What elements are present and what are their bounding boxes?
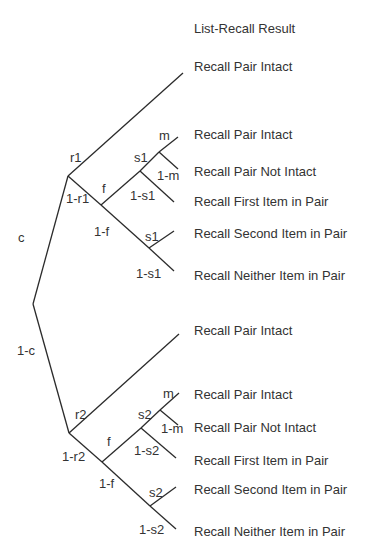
edge-1-c [33,304,69,433]
label-s1-upper: s1 [134,150,148,165]
label-r2: r2 [75,407,87,422]
label-s2-upper: s2 [138,407,152,422]
label-1-m: 1-m [161,421,183,436]
label-1-s2-upper: 1-s2 [134,443,159,458]
label-f: f [102,181,106,196]
outcome-lower-3: Recall Pair Not Intact [194,420,316,435]
label-m: m [163,386,174,401]
label-m: m [159,128,170,143]
label-1-s1-upper: 1-s1 [130,188,155,203]
outcome-upper-5: Recall Second Item in Pair [194,226,348,241]
outcome-upper-1: Recall Pair Intact [194,59,293,74]
edge-1-m [159,152,178,169]
label-r1: r1 [70,150,82,165]
label-s2-lower: s2 [149,485,163,500]
label-c: c [18,230,25,245]
edge-c [33,176,68,304]
label-1-r1: 1-r1 [66,191,89,206]
outcome-lower-5: Recall Second Item in Pair [194,482,348,497]
outcome-upper-6: Recall Neither Item in Pair [194,268,346,283]
outcome-upper-4: Recall First Item in Pair [194,194,329,209]
label-1-m: 1-m [157,168,179,183]
label-f: f [107,434,111,449]
label-1-s1-lower: 1-s1 [136,266,161,281]
label-1-f: 1-f [99,476,115,491]
outcome-upper-2: Recall Pair Intact [194,127,293,142]
edge-r1 [68,73,183,176]
label-1-r2: 1-r2 [62,449,85,464]
label-1-s2-lower: 1-s2 [139,522,164,537]
outcome-lower-2: Recall Pair Intact [194,387,293,402]
label-1-f: 1-f [94,224,110,239]
column-header: List-Recall Result [194,21,296,36]
probability-tree-diagram: List-Recall Result c 1-c r1 1-r1 f s1 m … [0,0,383,555]
label-1-c: 1-c [17,343,36,358]
label-s1-lower: s1 [145,229,159,244]
outcome-lower-1: Recall Pair Intact [194,323,293,338]
outcome-lower-4: Recall First Item in Pair [194,453,329,468]
outcome-upper-3: Recall Pair Not Intact [194,164,316,179]
outcome-lower-6: Recall Neither Item in Pair [194,524,346,539]
